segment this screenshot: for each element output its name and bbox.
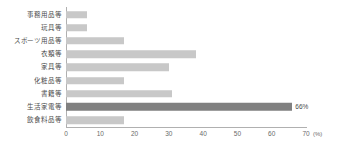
category-label: 家具等 <box>41 64 62 71</box>
x-tick-label: 20 <box>131 131 138 138</box>
bar-highlighted: 66% <box>66 103 292 112</box>
bar-row: 化粧品等 <box>66 74 306 87</box>
bar <box>66 90 172 98</box>
category-label: 生活家電等 <box>27 104 62 111</box>
bar-row: 玩具等 <box>66 21 306 34</box>
category-label: 書籍等 <box>41 90 62 97</box>
x-axis-tick-labels: 010203040506070(%) <box>0 131 362 143</box>
x-axis-unit-label: (%) <box>313 131 322 137</box>
x-tick-label: 30 <box>165 131 172 138</box>
category-label: スポーツ用品等 <box>14 38 62 45</box>
bar-row: 飲食料品等 <box>66 114 306 127</box>
x-axis-line <box>66 127 307 128</box>
bar <box>66 24 87 32</box>
x-tick-label: 0 <box>64 131 68 138</box>
bar-row: 事務用品等 <box>66 8 306 21</box>
horizontal-bar-chart: 事務用品等玩具等スポーツ用品等衣類等家具等化粧品等書籍等生活家電等66%飲食料品… <box>0 0 362 152</box>
category-label: 化粧品等 <box>34 77 62 84</box>
bar-row: 書籍等 <box>66 87 306 100</box>
bar-row: 家具等 <box>66 61 306 74</box>
bar-row: 生活家電等66% <box>66 100 306 113</box>
category-label: 玩具等 <box>41 25 62 32</box>
bar <box>66 11 87 19</box>
bar-row-list: 事務用品等玩具等スポーツ用品等衣類等家具等化粧品等書籍等生活家電等66%飲食料品… <box>66 8 306 127</box>
x-tick-label: 70 <box>302 131 309 138</box>
x-tick-label: 10 <box>97 131 104 138</box>
bar <box>66 64 169 72</box>
bar-row: 衣類等 <box>66 48 306 61</box>
x-tick-label: 50 <box>234 131 241 138</box>
category-label: 飲食料品等 <box>27 117 62 124</box>
bar <box>66 116 124 124</box>
bar-row: スポーツ用品等 <box>66 34 306 47</box>
bar <box>66 77 124 85</box>
bar <box>66 50 196 58</box>
bar <box>66 37 124 45</box>
plot-area: 事務用品等玩具等スポーツ用品等衣類等家具等化粧品等書籍等生活家電等66%飲食料品… <box>66 8 306 127</box>
x-tick-label: 60 <box>268 131 275 138</box>
category-label: 衣類等 <box>41 51 62 58</box>
x-tick-label: 40 <box>200 131 207 138</box>
bar-value-label: 66% <box>295 104 308 111</box>
category-label: 事務用品等 <box>27 11 62 18</box>
